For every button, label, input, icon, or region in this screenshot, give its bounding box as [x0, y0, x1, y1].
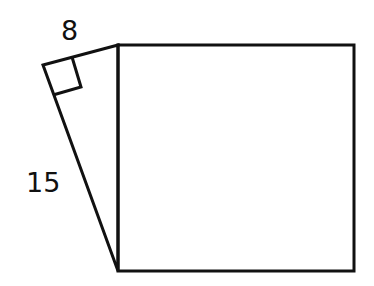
- right-triangle: [43, 45, 118, 271]
- square: [118, 45, 354, 271]
- geometry-diagram: 8 15: [0, 0, 374, 286]
- label-long-leg: 15: [26, 167, 60, 198]
- label-short-leg: 8: [61, 15, 78, 46]
